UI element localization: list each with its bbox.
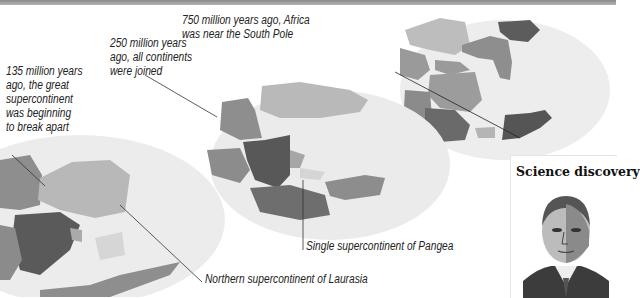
- callout-pangea: Single supercontinent of Pangea: [306, 239, 453, 253]
- science-discovery-panel: Science discovery: [510, 155, 617, 298]
- caption-250-million-years: 250 million years ago, all continents we…: [110, 36, 192, 78]
- globe-135-million-years: [0, 135, 225, 297]
- portrait-image: [523, 186, 609, 298]
- caption-135-million-years: 135 million years ago, the great superco…: [6, 64, 83, 134]
- science-discovery-title: Science discovery: [516, 164, 640, 179]
- callout-laurasia: Northern supercontinent of Laurasia: [205, 272, 368, 286]
- caption-750-million-years: 750 million years ago, Africa was near t…: [182, 13, 310, 41]
